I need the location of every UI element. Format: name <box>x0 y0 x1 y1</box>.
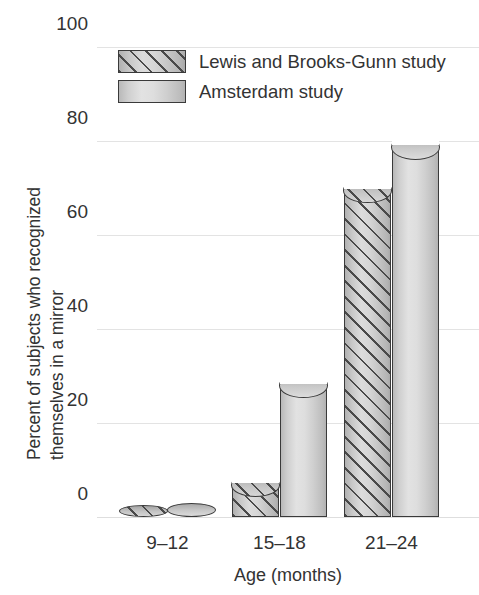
x-axis-title: Age (months) <box>97 565 479 586</box>
y-tick-label-0: 0 <box>28 484 88 503</box>
y-tick-label-40: 40 <box>28 296 88 315</box>
bar-lewis-15-18 <box>232 484 279 517</box>
y-tick-label-80: 80 <box>28 108 88 127</box>
y-axis-title: Percent of subjects who recognized thems… <box>0 0 62 520</box>
legend-swatch-fill <box>119 51 185 72</box>
legend-swatch-solid-icon <box>118 80 186 103</box>
chart-legend: Lewis and Brooks-Gunn study Amsterdam st… <box>118 48 446 108</box>
bar-body <box>392 146 439 517</box>
bar-lewis-9-12 <box>120 505 167 517</box>
legend-label-amsterdam: Amsterdam study <box>199 81 343 103</box>
legend-swatch-hatched-icon <box>118 50 186 73</box>
bar-body <box>344 190 391 517</box>
bar-amsterdam-15-18 <box>280 385 327 517</box>
bar-cap-mask <box>392 132 439 145</box>
y-axis-title-line-2: themselves in a mirror <box>47 290 68 460</box>
legend-swatch-fill <box>119 81 185 102</box>
y-tick-label-20: 20 <box>28 390 88 409</box>
y-tick-label-60: 60 <box>28 202 88 221</box>
bar-cap <box>119 505 169 517</box>
legend-item-amsterdam: Amsterdam study <box>118 78 446 105</box>
legend-item-lewis: Lewis and Brooks-Gunn study <box>118 48 446 75</box>
bar-fill <box>393 147 438 516</box>
chart-figure: Percent of subjects who recognized thems… <box>0 0 479 595</box>
bar-cap-mask <box>232 471 279 483</box>
bar-amsterdam-21-24 <box>392 146 439 517</box>
bar-amsterdam-9-12 <box>168 503 215 517</box>
bar-body <box>280 385 327 517</box>
bar-cap <box>167 503 217 517</box>
bar-cap-mask <box>344 176 391 189</box>
y-axis-title-line-1: Percent of subjects who recognized <box>24 187 45 460</box>
bar-cap-mask <box>280 371 327 384</box>
bar-fill <box>345 191 390 516</box>
y-tick-label-100: 100 <box>28 14 88 33</box>
bar-lewis-21-24 <box>344 190 391 517</box>
legend-label-lewis: Lewis and Brooks-Gunn study <box>199 51 446 73</box>
x-tick-label-21-24: 21–24 <box>321 533 462 552</box>
gridline-zero-baseline <box>97 517 479 518</box>
bar-fill <box>281 386 326 516</box>
